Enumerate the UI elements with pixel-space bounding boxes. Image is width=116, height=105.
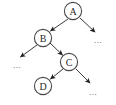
- ellipsis-group: ... ... ...: [13, 35, 102, 97]
- node-a-label: A: [69, 6, 77, 17]
- edge-group: [21, 18, 96, 83]
- edge-a-to-b: [51, 19, 69, 31]
- node-c[interactable]: C: [60, 53, 77, 70]
- ellipsis-b-left-label: ...: [13, 60, 21, 70]
- node-c-label: C: [66, 57, 73, 68]
- node-b[interactable]: B: [34, 29, 51, 46]
- node-d[interactable]: D: [34, 77, 51, 94]
- node-d-label: D: [39, 81, 46, 92]
- node-b-label: B: [40, 33, 47, 44]
- edge-c-to-d: [51, 69, 64, 79]
- binary-tree-diagram: A B C D ... ... ...: [0, 0, 116, 105]
- tree-svg-canvas: A B C D ... ... ...: [0, 0, 116, 105]
- edge-a-to-ellipsis-right: [80, 18, 95, 32]
- edge-b-to-c: [50, 43, 63, 55]
- node-a[interactable]: A: [64, 2, 81, 19]
- edge-b-to-ellipsis-left: [21, 45, 38, 57]
- ellipsis-a-right-label: ...: [94, 35, 102, 45]
- ellipsis-c-right-label: ...: [89, 87, 97, 97]
- edge-c-to-ellipsis-right: [76, 69, 90, 83]
